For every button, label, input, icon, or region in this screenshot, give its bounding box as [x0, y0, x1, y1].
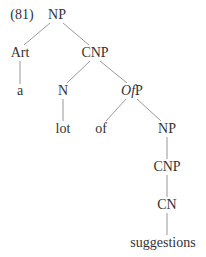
node-np-2: NP [158, 121, 176, 137]
edge-np-art [24, 23, 50, 45]
edge-ofp-np [137, 99, 161, 121]
example-number: (81) [10, 7, 33, 23]
leaf-suggestions: suggestions [130, 235, 195, 251]
edge-ofp-of [106, 99, 126, 121]
leaf-of: of [95, 121, 107, 137]
edge-cnp-n [67, 61, 90, 83]
node-art: Art [11, 45, 30, 61]
edge-cnp-ofp [100, 61, 127, 83]
node-n: N [58, 83, 68, 99]
leaf-lot: lot [56, 121, 71, 137]
node-cnp-2: CNP [153, 159, 180, 175]
ofp-rest-part: P [135, 83, 143, 98]
leaf-a: a [17, 83, 23, 99]
ofp-italic-part: Of [121, 83, 135, 98]
node-np-root: NP [48, 7, 66, 23]
node-cnp: CNP [81, 45, 108, 61]
node-ofp: OfP [121, 83, 143, 99]
node-cn: CN [157, 197, 176, 213]
edge-np-cnp [63, 23, 89, 45]
